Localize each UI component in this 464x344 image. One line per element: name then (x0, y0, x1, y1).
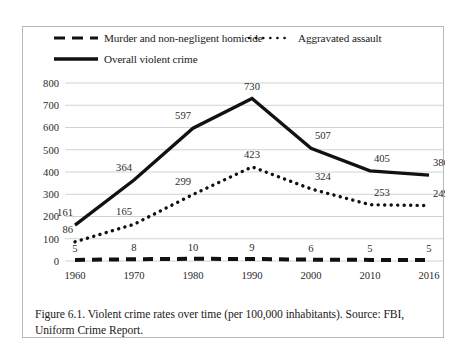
plot-area: 0100200300400500600700800 19601970198019… (23, 75, 443, 305)
series-data-labels: 1613645977305074053868616529942332425324… (57, 81, 445, 254)
data-point-label: 6 (308, 243, 313, 254)
data-point-label: 5 (426, 243, 431, 254)
x-axis-tick-label: 1990 (241, 270, 262, 281)
data-point-label: 386 (433, 157, 445, 168)
data-point-label: 730 (244, 81, 260, 92)
data-point-label: 299 (175, 176, 191, 187)
series-line (75, 167, 429, 242)
chart-legend: Murder and non-negligent homicide Aggrav… (23, 27, 443, 75)
legend-item-aggravated-assault: Aggravated assault (247, 32, 382, 44)
x-axis-tick-labels: 1960197019801990200020102016 (64, 270, 439, 281)
data-point-label: 10 (188, 242, 199, 253)
y-axis-tick-labels: 0100200300400500600700800 (43, 78, 59, 267)
x-axis-tick-label: 1980 (182, 270, 203, 281)
data-point-label: 8 (131, 242, 136, 253)
y-axis-tick-label: 400 (43, 167, 59, 178)
data-point-label: 597 (175, 110, 191, 121)
legend-label-aggravated-assault: Aggravated assault (298, 32, 382, 44)
figure-caption: Figure 6.1. Violent crime rates over tim… (35, 307, 433, 338)
legend-item-overall-violent-crime: Overall violent crime (53, 53, 198, 65)
data-point-label: 423 (244, 149, 260, 160)
dotted-line-swatch (247, 32, 293, 44)
data-point-label: 324 (315, 171, 332, 182)
figure-panel: Murder and non-negligent homicide Aggrav… (22, 26, 444, 338)
x-axis-tick-label: 2000 (300, 270, 321, 281)
data-point-label: 86 (62, 224, 73, 235)
x-axis-tick-label: 2010 (359, 270, 380, 281)
solid-line-swatch (53, 53, 99, 65)
data-point-label: 249 (433, 188, 445, 199)
x-axis-tick-label: 1960 (64, 270, 85, 281)
chart-canvas: 0100200300400500600700800 19601970198019… (23, 75, 445, 305)
legend-label-murder: Murder and non-negligent homicide (104, 32, 263, 44)
data-point-label: 9 (249, 242, 254, 253)
data-point-label: 5 (367, 243, 372, 254)
legend-label-overall-violent-crime: Overall violent crime (104, 53, 198, 65)
data-point-label: 405 (374, 153, 390, 164)
y-axis-tick-label: 600 (43, 122, 59, 133)
data-point-label: 165 (116, 206, 132, 217)
data-point-label: 253 (374, 187, 390, 198)
y-axis-tick-label: 800 (43, 78, 59, 89)
y-axis-tick-label: 0 (54, 256, 59, 267)
legend-item-murder: Murder and non-negligent homicide (53, 32, 263, 44)
series-line (75, 259, 429, 260)
dashed-line-swatch (53, 32, 99, 44)
y-axis-tick-label: 300 (43, 189, 59, 200)
data-point-label: 5 (72, 243, 77, 254)
y-axis-tick-label: 500 (43, 145, 59, 156)
data-point-label: 364 (116, 162, 133, 173)
data-point-label: 161 (57, 207, 73, 218)
y-axis-tick-label: 700 (43, 100, 59, 111)
y-axis-tick-label: 100 (43, 234, 59, 245)
x-axis-tick-label: 2016 (418, 270, 439, 281)
x-axis-tick-label: 1970 (123, 270, 144, 281)
series-lines (75, 99, 429, 260)
data-point-label: 507 (315, 130, 331, 141)
